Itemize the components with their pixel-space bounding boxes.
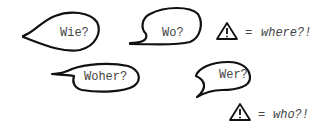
legend-meaning-where: where?! xyxy=(261,26,311,40)
bubble-text-wer: Wer? xyxy=(219,68,248,82)
warning-triangle-icon xyxy=(230,104,250,120)
legend-equals-1: = xyxy=(245,26,252,40)
bubble-text-woher: Woher? xyxy=(84,70,127,84)
bubble-text-wo: Wo? xyxy=(162,26,184,40)
legend-meaning-who: who?! xyxy=(273,108,309,122)
warning-triangle-icon xyxy=(217,23,237,39)
legend-equals-2: = xyxy=(258,108,265,122)
bubble-text-wie: Wie? xyxy=(60,26,89,40)
